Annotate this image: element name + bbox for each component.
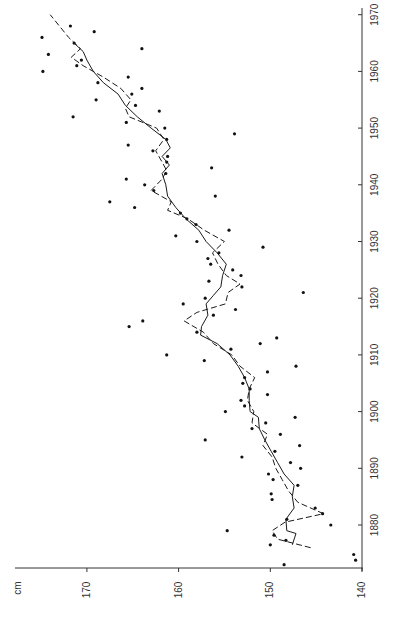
data-point	[283, 563, 286, 566]
cm-axis-unit-label: cm	[12, 581, 23, 594]
data-point	[264, 421, 267, 424]
data-point	[69, 24, 72, 27]
data-point	[289, 461, 292, 464]
data-point	[233, 132, 236, 135]
year-tick-label: 1940	[369, 173, 380, 196]
year-tick-label: 1960	[369, 60, 380, 83]
data-point	[271, 498, 274, 501]
data-point	[259, 342, 262, 345]
data-point	[269, 543, 272, 546]
data-point	[165, 353, 168, 356]
data-point	[240, 285, 243, 288]
data-point	[166, 155, 169, 158]
data-point	[128, 325, 131, 328]
data-point	[239, 399, 242, 402]
data-point	[250, 427, 253, 430]
data-point	[234, 308, 237, 311]
data-point	[47, 53, 50, 56]
data-point	[239, 274, 242, 277]
data-point	[214, 195, 217, 198]
year-tick-label: 1910	[369, 343, 380, 366]
data-point	[302, 291, 305, 294]
data-point	[272, 478, 275, 481]
data-point	[75, 64, 78, 67]
data-point	[352, 553, 355, 556]
data-point	[212, 314, 215, 317]
data-point	[241, 382, 244, 385]
data-point	[108, 200, 111, 203]
data-point	[182, 302, 185, 305]
data-point	[261, 246, 264, 249]
year-tick-label: 1890	[369, 457, 380, 480]
cm-tick-label: 170	[81, 581, 92, 598]
data-point	[209, 263, 212, 266]
data-point	[125, 121, 128, 124]
data-point	[298, 444, 301, 447]
data-point	[329, 523, 332, 526]
data-point	[134, 104, 137, 107]
data-point	[80, 59, 83, 62]
data-point	[127, 144, 130, 147]
data-point	[296, 484, 299, 487]
year-tick-label: 1900	[369, 400, 380, 423]
year-tick-label: 1930	[369, 230, 380, 253]
cm-tick-label: 140	[356, 581, 367, 598]
data-point	[133, 206, 136, 209]
data-point	[299, 467, 302, 470]
data-point	[143, 183, 146, 186]
data-point	[227, 229, 230, 232]
data-point	[206, 257, 209, 260]
solid-trend-line	[74, 43, 296, 545]
data-point	[158, 110, 161, 113]
data-point	[141, 319, 144, 322]
data-point	[95, 98, 98, 101]
year-tick-label: 1880	[369, 513, 380, 536]
data-point	[294, 416, 297, 419]
year-tick-label: 1920	[369, 287, 380, 310]
data-point	[267, 472, 270, 475]
data-point	[270, 492, 273, 495]
cm-axis-ticks: 140150160170	[81, 568, 367, 598]
year-axis-ticks: 1880189019001910192019301940195019601970	[358, 3, 380, 536]
data-point	[279, 433, 282, 436]
height-trend-chart: 140150160170 188018901900191019201930194…	[0, 0, 394, 628]
data-point	[204, 438, 207, 441]
data-point	[151, 149, 154, 152]
dashed-trend-line	[50, 15, 323, 548]
data-point	[163, 127, 166, 130]
data-point	[41, 70, 44, 73]
data-point	[231, 268, 234, 271]
series-layer	[40, 15, 357, 567]
data-point	[72, 115, 75, 118]
data-point	[140, 87, 143, 90]
plot-area: 140150160170 188018901900191019201930194…	[12, 3, 380, 598]
data-point	[273, 450, 276, 453]
data-point	[125, 178, 128, 181]
data-point	[203, 359, 206, 362]
data-point	[96, 81, 99, 84]
data-point	[240, 455, 243, 458]
data-point	[294, 365, 297, 368]
data-point	[195, 331, 198, 334]
data-point	[195, 240, 198, 243]
data-point	[275, 336, 278, 339]
year-tick-label: 1950	[369, 117, 380, 140]
data-point	[93, 30, 96, 33]
data-point	[226, 529, 229, 532]
data-point	[210, 166, 213, 169]
year-tick-label: 1970	[369, 3, 380, 26]
data-point	[40, 36, 43, 39]
cm-tick-label: 150	[264, 581, 275, 598]
data-point	[207, 280, 210, 283]
data-point	[354, 559, 357, 562]
data-point	[140, 47, 143, 50]
data-point	[243, 404, 246, 407]
data-point	[204, 297, 207, 300]
data-point	[284, 539, 287, 542]
data-point	[229, 348, 232, 351]
data-point	[127, 76, 130, 79]
data-point	[130, 93, 133, 96]
data-point	[224, 410, 227, 413]
data-point	[266, 370, 269, 373]
observation-dots	[40, 24, 357, 566]
